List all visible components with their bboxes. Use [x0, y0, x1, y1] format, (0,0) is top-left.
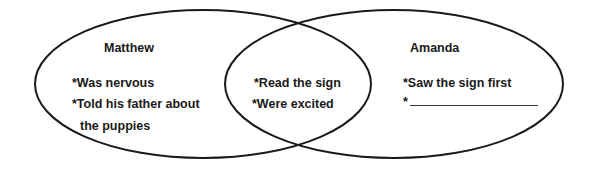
asterisk: *: [403, 95, 408, 109]
left-item: the puppies: [80, 116, 150, 137]
right-item: *Saw the sign first: [403, 73, 511, 94]
fill-in-blank[interactable]: [410, 105, 538, 106]
left-item: *Told his father about: [72, 94, 200, 115]
left-title: Matthew: [104, 38, 154, 59]
middle-item: *Read the sign: [254, 73, 341, 94]
right-title: Amanda: [410, 38, 459, 59]
right-item-blank[interactable]: *: [403, 92, 538, 113]
left-item: *Was nervous: [72, 73, 154, 94]
middle-item: *Were excited: [252, 94, 334, 115]
